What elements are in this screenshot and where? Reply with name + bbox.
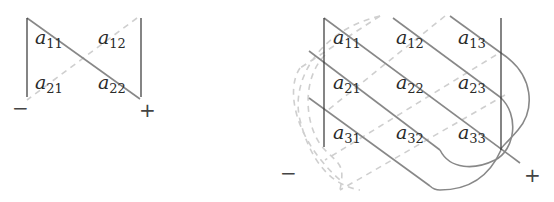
positive-wrap-curve — [430, 150, 501, 190]
entry-a11: a11 — [35, 26, 63, 51]
matrix-3x3: a11 a12 a13 a21 a22 a23 a31 a32 a33 − + — [280, 16, 541, 190]
entry-a22: a22 — [396, 71, 424, 96]
minus-sign: − — [12, 96, 29, 120]
entry-a11: a11 — [333, 26, 361, 51]
entry-a22: a22 — [98, 71, 126, 96]
entry-a21: a21 — [35, 71, 63, 96]
plus-sign: + — [524, 163, 541, 187]
entry-a33: a33 — [458, 121, 486, 146]
minus-sign: − — [280, 161, 297, 185]
entry-a12: a12 — [98, 26, 126, 51]
plus-sign: + — [139, 98, 156, 122]
entry-a21: a21 — [333, 71, 361, 96]
determinant-diagram: a11 a12 a21 a22 − + a11 a12 a13 a21 — [0, 0, 554, 202]
entry-a13: a13 — [458, 26, 486, 51]
entry-a23: a23 — [458, 71, 486, 96]
entry-a32: a32 — [396, 121, 424, 146]
matrix-2x2: a11 a12 a21 a22 − + — [12, 18, 156, 122]
